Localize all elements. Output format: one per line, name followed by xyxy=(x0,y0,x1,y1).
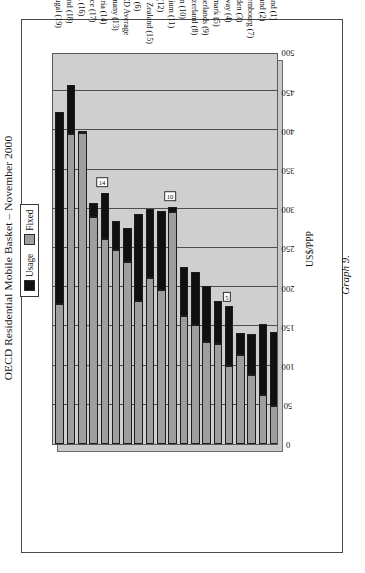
bar-segment-fixed xyxy=(225,366,234,444)
bar-segment-fixed xyxy=(180,316,189,444)
plot-area: Iceland (1)Finland (2)Luxembourg (7)Swed… xyxy=(52,53,278,445)
bar-segment-fixed xyxy=(112,250,121,444)
bar-segment-usage xyxy=(55,112,64,304)
bar-segment-fixed xyxy=(236,355,245,444)
bar-segment-usage xyxy=(78,131,87,133)
category-label: Switzerland (8) xyxy=(190,0,199,49)
chart-legend: Usage Fixed xyxy=(20,204,39,297)
legend-swatch-usage xyxy=(24,280,35,291)
bar-segment-fixed xyxy=(67,134,76,444)
legend-item-usage: Usage xyxy=(24,254,35,291)
value-tick-500: 500 xyxy=(283,38,293,68)
legend-swatch-fixed xyxy=(24,234,35,245)
category-label: Sweden (3) xyxy=(235,0,244,49)
bar-segment-usage xyxy=(247,334,256,375)
category-label: New Zealand (15) xyxy=(145,0,154,49)
category-label: France (17) xyxy=(88,0,97,49)
bar-segment-fixed xyxy=(55,304,64,444)
bar-segment-fixed xyxy=(202,342,211,444)
bar-segment-fixed xyxy=(78,133,87,444)
bar-segment-fixed xyxy=(123,262,132,444)
category-label: Austria (14) xyxy=(99,0,108,49)
bar-segment-usage xyxy=(225,306,234,366)
category-label: UK (12) xyxy=(156,0,165,49)
bar-segment-usage xyxy=(134,214,143,302)
value-tick-400: 400 xyxy=(283,116,293,146)
data-annotation: 5 xyxy=(222,292,230,302)
bar-segment-fixed xyxy=(89,217,98,444)
bar-segment-fixed xyxy=(214,344,223,444)
bar-segment-fixed xyxy=(134,301,143,444)
data-annotation: 10 xyxy=(164,191,176,201)
bar-segment-usage xyxy=(214,301,223,343)
bar-segment-fixed xyxy=(270,406,278,444)
chart-figure: OECD Residential Mobile Basket – Novembe… xyxy=(0,23,300,493)
category-label: Norway (4) xyxy=(224,0,233,49)
value-tick-50: 50 xyxy=(283,391,293,421)
bar-segment-usage xyxy=(123,228,132,262)
bar-segment-usage xyxy=(202,286,211,342)
value-tick-350: 350 xyxy=(283,156,293,186)
category-label: Portugal (19) xyxy=(54,0,63,49)
bar-segment-fixed xyxy=(168,212,177,444)
category-label: Finland (2) xyxy=(258,0,267,49)
bar-segment-usage xyxy=(89,203,98,216)
category-label: Ireland (18) xyxy=(65,0,74,49)
rotated-figure-wrapper: OECD Residential Mobile Basket – Novembe… xyxy=(0,23,300,493)
bar-segment-fixed xyxy=(146,278,155,444)
figure-caption: Graph 9. xyxy=(339,255,351,295)
value-axis-title: US$/PPP xyxy=(304,53,315,445)
bar-segment-usage xyxy=(270,332,278,406)
legend-label-usage: Usage xyxy=(25,254,35,277)
legend-item-fixed: Fixed xyxy=(24,210,35,245)
value-tick-200: 200 xyxy=(283,273,293,303)
bar-segment-fixed xyxy=(259,395,268,444)
bar-segment-fixed xyxy=(101,239,110,444)
category-label: Italy (6) xyxy=(133,0,142,49)
bar-segment-usage xyxy=(67,85,76,134)
value-tick-0: 0 xyxy=(283,430,293,460)
bar-segment-usage xyxy=(180,267,189,316)
category-label: OECD Average xyxy=(122,0,131,49)
category-label: Luxembourg (7) xyxy=(246,0,255,49)
bar-segment-usage xyxy=(101,193,110,238)
bar-segment-fixed xyxy=(157,290,166,444)
bar-segment-usage xyxy=(259,324,268,395)
legend-label-fixed: Fixed xyxy=(25,210,35,231)
category-label: Iceland (1) xyxy=(269,0,278,49)
bar-segment-usage xyxy=(146,209,155,278)
value-tick-450: 450 xyxy=(283,77,293,107)
plot-face xyxy=(52,53,278,445)
category-label: Spain (10) xyxy=(178,0,187,49)
category-label: Belgium (11) xyxy=(167,0,176,49)
chart-title: OECD Residential Mobile Basket – Novembe… xyxy=(2,23,14,493)
category-label: Netherlands (9) xyxy=(201,0,210,49)
value-tick-250: 250 xyxy=(283,234,293,264)
value-tick-300: 300 xyxy=(283,195,293,225)
bar-segment-usage xyxy=(168,207,177,212)
bar-segment-usage xyxy=(157,211,166,290)
data-annotation: 14 xyxy=(97,177,109,187)
category-label: USA (16) xyxy=(77,0,86,49)
value-tick-100: 100 xyxy=(283,352,293,382)
category-label: Germany (13) xyxy=(111,0,120,49)
category-label: Denmark (5) xyxy=(212,0,221,49)
bar-segment-usage xyxy=(112,221,121,251)
figure-page: OECD Residential Mobile Basket – Novembe… xyxy=(0,0,365,573)
bar-segment-usage xyxy=(191,272,200,325)
value-tick-150: 150 xyxy=(283,312,293,342)
bar-segment-fixed xyxy=(191,325,200,444)
bar-rows xyxy=(53,54,277,444)
bar-segment-fixed xyxy=(247,375,256,444)
bar-segment-usage xyxy=(236,333,245,355)
